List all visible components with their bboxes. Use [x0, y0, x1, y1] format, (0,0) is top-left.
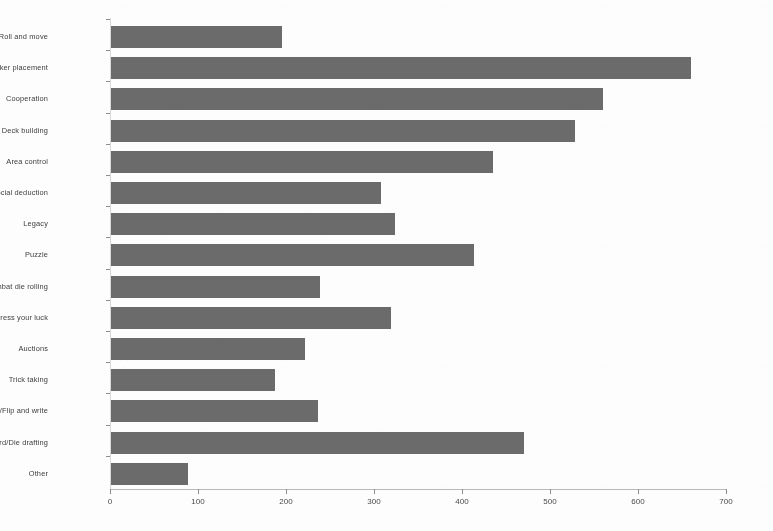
- bar-trick-taking: [110, 369, 275, 391]
- y-axis-label: Area control: [0, 157, 48, 167]
- y-axis-label: Combat die rolling: [0, 282, 48, 292]
- x-axis-tick: [110, 489, 111, 494]
- bar-fill: [110, 463, 188, 485]
- bar-fill: [110, 338, 305, 360]
- bar-worker-placement: [110, 57, 691, 79]
- bar-combat-die-rolling: [110, 276, 320, 298]
- bar-fill: [110, 369, 275, 391]
- y-axis-label: Roll and move: [0, 32, 48, 42]
- bar-auctions: [110, 338, 305, 360]
- bar-roll-flip-and-write: [110, 400, 318, 422]
- bar-fill: [110, 213, 395, 235]
- bar-deck-building: [110, 120, 575, 142]
- x-axis-tick-label: 100: [178, 497, 218, 506]
- bar-cooperation: [110, 88, 603, 110]
- x-axis-tick: [462, 489, 463, 494]
- bar-fill: [110, 57, 691, 79]
- x-axis-tick-label: 400: [442, 497, 482, 506]
- y-axis-label: Cooperation: [0, 94, 48, 104]
- bar-fill: [110, 276, 320, 298]
- bar-puzzle: [110, 244, 474, 266]
- y-axis-label: Press your luck: [0, 313, 48, 323]
- x-axis-tick: [638, 489, 639, 494]
- bar-fill: [110, 120, 575, 142]
- x-axis-line: [110, 489, 726, 490]
- y-axis-label: Legacy: [0, 219, 48, 229]
- y-axis-label: Secret identity/Social deduction: [0, 188, 48, 198]
- x-axis-tick: [286, 489, 287, 494]
- y-axis-label: Auctions: [0, 344, 48, 354]
- y-axis-label: Puzzle: [0, 250, 48, 260]
- x-axis-tick: [726, 489, 727, 494]
- y-axis-label: Other: [0, 469, 48, 479]
- x-axis-tick: [550, 489, 551, 494]
- x-axis-tick-label: 700: [706, 497, 746, 506]
- bar-card-die-drafting: [110, 432, 524, 454]
- bar-fill: [110, 244, 474, 266]
- y-axis-line: [110, 18, 111, 489]
- bar-secret-identity-social-deduction: [110, 182, 381, 204]
- x-axis-tick-label: 0: [90, 497, 130, 506]
- bar-fill: [110, 182, 381, 204]
- x-axis-tick: [374, 489, 375, 494]
- bar-press-your-luck: [110, 307, 391, 329]
- bar-fill: [110, 151, 493, 173]
- bar-fill: [110, 307, 391, 329]
- bar-fill: [110, 400, 318, 422]
- bar-chart: Roll and moveWorker placementCooperation…: [0, 0, 773, 531]
- bar-roll-and-move: [110, 26, 282, 48]
- x-axis-tick-label: 500: [530, 497, 570, 506]
- y-axis-label: Deck building: [0, 126, 48, 136]
- bar-other: [110, 463, 188, 485]
- x-axis-tick-label: 600: [618, 497, 658, 506]
- bar-fill: [110, 432, 524, 454]
- y-axis-label: Worker placement: [0, 63, 48, 73]
- y-axis-label: Trick taking: [0, 375, 48, 385]
- x-axis-tick: [198, 489, 199, 494]
- bar-fill: [110, 26, 282, 48]
- bar-legacy: [110, 213, 395, 235]
- bar-area-control: [110, 151, 493, 173]
- x-axis-tick-label: 300: [354, 497, 394, 506]
- plot-area: Roll and moveWorker placementCooperation…: [110, 18, 726, 488]
- y-axis-label: Roll/Flip and write: [0, 406, 48, 416]
- y-axis-label: Card/Die drafting: [0, 438, 48, 448]
- bar-fill: [110, 88, 603, 110]
- x-axis-tick-label: 200: [266, 497, 306, 506]
